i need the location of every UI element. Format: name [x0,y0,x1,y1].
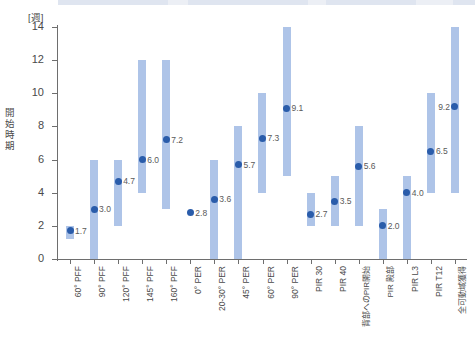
x-tick-label: 120° PFF [122,266,131,302]
data-point [187,209,194,216]
x-tick-label: 160° PFF [170,266,179,302]
x-tick-mark [407,259,408,264]
x-tick-mark [94,259,95,264]
x-tick-mark [190,259,191,264]
x-tick-mark [311,259,312,264]
y-tick-label: 10 [0,87,44,98]
x-tick-label: 145° PFF [146,266,155,302]
range-bar [234,126,242,259]
y-tick-label: 6 [0,154,44,165]
chart-category-group: 7.2 [154,27,178,259]
x-tick-label: PIR 30 [315,266,324,292]
x-tick-label: 60° PFF [74,266,83,297]
y-axis-group: [週] 開始時期 [0,0,50,339]
data-point [211,196,218,203]
range-bar [427,93,435,192]
range-bar [162,60,170,209]
chart-category-group: 3.6 [202,27,226,259]
x-tick-mark [238,259,239,264]
x-tick-label: PIR 40 [339,266,348,292]
chart-category-group: 3.0 [82,27,106,259]
data-point [139,156,146,163]
data-point [331,198,338,205]
chart-container: [週] 開始時期 02468101214 1.73.04.76.07.22.83… [0,0,475,339]
x-tick-label: PIR 殿部 [387,266,395,298]
y-tick-label: 12 [0,54,44,65]
x-tick-label: PIR T12 [435,266,444,297]
x-tick-mark [335,259,336,264]
chart-category-group: 2.7 [299,27,323,259]
x-tick-mark [142,259,143,264]
x-tick-label: 90° PER [291,266,300,299]
data-point [259,135,266,142]
y-tick-label: 4 [0,187,44,198]
x-tick-label: 背部へのPIR開始 [363,266,371,327]
x-tick-mark [166,259,167,264]
y-tick-label: 0 [0,253,44,264]
x-tick-mark [70,259,71,264]
range-bar [355,126,363,225]
y-tick-mark [52,259,58,260]
range-bar [379,209,387,259]
y-tick-label: 8 [0,120,44,131]
x-tick-label: 全可動域獲得 [459,266,467,314]
range-bar [307,193,315,226]
y-tick-label: 2 [0,220,44,231]
x-tick-label: 20-30° PER [218,266,227,311]
x-tick-label: 45° PER [242,266,251,299]
range-bar [258,93,266,192]
x-tick-label: 90° PFF [98,266,107,297]
chart-category-group: 5.7 [226,27,250,259]
data-point [355,163,362,170]
y-tick-label: 14 [0,21,44,32]
chart-category-group: 9.1 [275,27,299,259]
x-tick-mark [214,259,215,264]
x-tick-mark [383,259,384,264]
x-tick-label: PIR L3 [411,266,420,292]
chart-category-group: 3.5 [323,27,347,259]
chart-category-group: 6.0 [130,27,154,259]
plot-area: 1.73.04.76.07.22.83.65.77.39.12.73.55.62… [58,27,467,259]
data-point [115,178,122,185]
data-point [67,227,74,234]
x-tick-mark [118,259,119,264]
chart-category-group: 2.0 [371,27,395,259]
x-tick-mark [455,259,456,264]
data-point [91,206,98,213]
x-tick-mark [287,259,288,264]
chart-category-group: 4.0 [395,27,419,259]
range-bar [138,60,146,193]
range-bar [114,160,122,226]
chart-category-group: 6.5 [419,27,443,259]
chart-category-group: 5.6 [347,27,371,259]
chart-category-group: 7.3 [250,27,274,259]
data-point [235,161,242,168]
top-decoration-band [58,0,475,5]
data-point [163,136,170,143]
x-tick-mark [359,259,360,264]
data-point-label: 9.2 [438,103,450,112]
x-tick-mark [263,259,264,264]
data-point [283,105,290,112]
chart-category-group: 9.2 [443,27,467,259]
x-tick-label: 0° PER [194,266,203,294]
x-tick-mark [431,259,432,264]
chart-category-group: 2.8 [178,27,202,259]
range-bar [283,27,291,176]
chart-category-group: 1.7 [58,27,82,259]
range-bar [210,160,218,259]
chart-category-group: 4.7 [106,27,130,259]
x-tick-label: 60° PER [267,266,276,299]
data-point [307,211,314,218]
